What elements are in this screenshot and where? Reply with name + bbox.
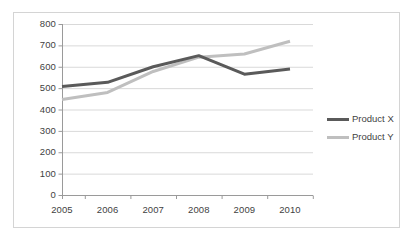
x-tick-label-2007: 2007: [133, 204, 173, 215]
axis-lines: [59, 24, 314, 199]
y-tick-label-400: 400: [20, 104, 56, 115]
y-tick-label-500: 500: [20, 82, 56, 93]
legend-label: Product Y: [352, 131, 394, 143]
y-tick-label-0: 0: [20, 189, 56, 200]
legend-color-swatch: [327, 136, 349, 139]
x-tick-label-2008: 2008: [179, 204, 219, 215]
x-tick-label-2006: 2006: [88, 204, 128, 215]
legend-item-product-x[interactable]: Product X: [327, 113, 394, 125]
y-tick-label-200: 200: [20, 146, 56, 157]
y-tick-label-600: 600: [20, 61, 56, 72]
y-tick-label-700: 700: [20, 39, 56, 50]
y-tick-label-800: 800: [20, 18, 56, 29]
y-tick-label-100: 100: [20, 168, 56, 179]
x-axis-tick-marks: [85, 196, 313, 200]
x-tick-label-2005: 2005: [42, 204, 82, 215]
series-line-product-y: [62, 41, 290, 99]
x-tick-label-2009: 2009: [224, 204, 264, 215]
data-series-lines: [62, 41, 290, 99]
gridlines: [62, 25, 313, 196]
y-tick-label-300: 300: [20, 125, 56, 136]
legend-color-swatch: [327, 118, 349, 121]
series-line-product-x: [62, 56, 290, 87]
x-tick-label-2010: 2010: [270, 204, 310, 215]
legend-item-product-y[interactable]: Product Y: [327, 131, 394, 143]
legend-label: Product X: [352, 113, 394, 125]
